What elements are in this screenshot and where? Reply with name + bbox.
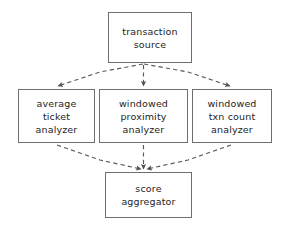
edge-average-to-aggregator	[57, 145, 141, 169]
node-average-ticket-analyzer[interactable]: average ticket analyzer	[18, 89, 95, 143]
node-line: windowed	[207, 97, 256, 110]
node-line: average	[37, 97, 77, 110]
node-line: txn count	[209, 110, 256, 123]
edge-source-to-txn	[144, 64, 230, 86]
node-line: ticket	[43, 110, 70, 123]
node-windowed-txn-count-analyzer[interactable]: windowed txn count analyzer	[192, 89, 272, 143]
node-line: analyzer	[211, 123, 253, 136]
node-line: analyzer	[123, 123, 165, 136]
node-line: transaction	[122, 25, 177, 38]
node-line: aggregator	[121, 195, 175, 208]
node-line: windowed	[119, 97, 168, 110]
edge-source-to-average	[58, 64, 143, 86]
diagram-canvas: transaction source average ticket analyz…	[0, 0, 291, 233]
node-line: analyzer	[36, 123, 78, 136]
node-transaction-source[interactable]: transaction source	[108, 12, 192, 63]
edge-txn-to-aggregator	[147, 145, 231, 169]
node-line: proximity	[120, 110, 166, 123]
node-windowed-proximity-analyzer[interactable]: windowed proximity analyzer	[99, 89, 188, 143]
node-line: source	[134, 38, 166, 51]
node-line: score	[135, 182, 161, 195]
node-score-aggregator[interactable]: score aggregator	[105, 172, 192, 218]
